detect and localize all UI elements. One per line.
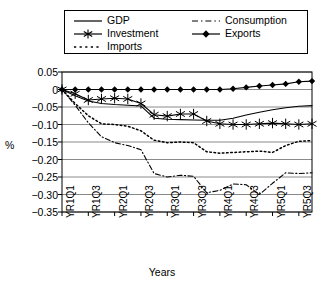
marker-diamond-exports xyxy=(72,86,78,92)
x-tick-label: YR1Q3 xyxy=(92,185,102,218)
chart-figure: GDP Investment xyxy=(0,0,324,284)
x-axis-title: Years xyxy=(0,266,324,278)
x-tick-label: YR2Q1 xyxy=(119,185,129,218)
marker-diamond-exports xyxy=(269,82,275,88)
x-tick-label: YR3Q3 xyxy=(198,185,208,218)
x-tick-label: YR1Q1 xyxy=(66,185,76,218)
x-tick-label: YR4Q1 xyxy=(224,185,234,218)
marker-diamond-exports xyxy=(177,86,183,92)
marker-diamond-exports xyxy=(204,86,210,92)
marker-diamond-exports xyxy=(282,81,288,87)
marker-diamond-exports xyxy=(256,83,262,89)
marker-diamond-exports xyxy=(85,86,91,92)
marker-diamond-exports xyxy=(164,86,170,92)
marker-diamond-exports xyxy=(151,86,157,92)
marker-diamond-exports xyxy=(125,86,131,92)
marker-diamond-exports xyxy=(296,79,302,85)
marker-diamond-exports xyxy=(190,86,196,92)
marker-diamond-exports xyxy=(98,86,104,92)
marker-diamond-exports xyxy=(138,86,144,92)
marker-diamond-exports xyxy=(230,86,236,92)
x-tick-label: YR5Q1 xyxy=(277,185,287,218)
x-tick-label: YR5Q3 xyxy=(303,185,313,218)
marker-diamond-exports xyxy=(309,78,315,84)
x-tick-label: YR2Q3 xyxy=(145,185,155,218)
marker-diamond-exports xyxy=(217,86,223,92)
x-tick-label: YR3Q1 xyxy=(171,185,181,218)
plot-area xyxy=(0,0,324,284)
series-line-gdp xyxy=(62,90,312,121)
x-tick-label: YR4Q3 xyxy=(250,185,260,218)
marker-diamond-exports xyxy=(111,86,117,92)
